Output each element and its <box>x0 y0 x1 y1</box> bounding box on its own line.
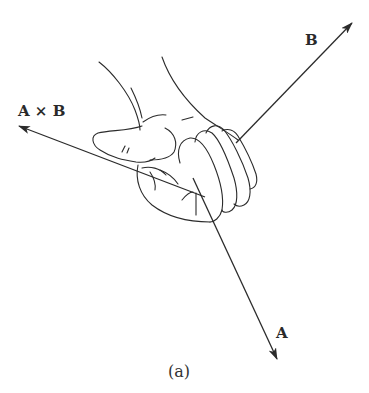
figure-caption: (a) <box>168 364 190 380</box>
label-a-cross-b: A × B <box>18 104 65 119</box>
vector-axb-arrow <box>19 126 205 197</box>
vector-b-arrow <box>236 23 352 143</box>
hand-drawing <box>93 57 257 222</box>
diagram-canvas <box>0 0 369 393</box>
label-a: A <box>276 326 288 341</box>
label-b: B <box>305 33 318 48</box>
right-hand-rule-figure: A × B B A (a) <box>0 0 369 393</box>
